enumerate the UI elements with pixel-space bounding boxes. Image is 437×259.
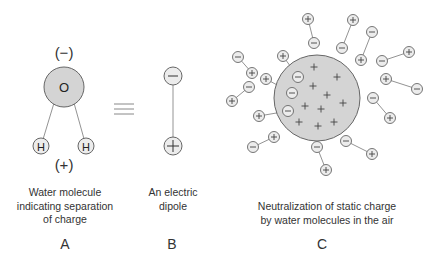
- hydrogen-label: H: [37, 141, 45, 153]
- charged-particle: [274, 55, 360, 141]
- panel-label-a: A: [45, 236, 85, 252]
- caption-line: An electric: [133, 186, 213, 200]
- electric-dipole: [164, 67, 182, 155]
- negative-charge-label: (−): [44, 44, 84, 61]
- equivalence-icon: [114, 104, 134, 114]
- hydrogen-label: H: [82, 141, 90, 153]
- positive-charge-label: (+): [44, 156, 84, 173]
- caption-c: Neutralization of static charge by water…: [237, 200, 417, 227]
- caption-line: Neutralization of static charge: [237, 200, 417, 214]
- caption-line: Water molecule: [10, 186, 120, 200]
- panel-label-c: C: [302, 236, 342, 252]
- caption-line: by water molecules in the air: [237, 214, 417, 228]
- caption-line: indicating separation: [10, 200, 120, 214]
- caption-a: Water molecule indicating separation of …: [10, 186, 120, 227]
- caption-line: dipole: [133, 200, 213, 214]
- panel-label-b: B: [152, 236, 192, 252]
- oxygen-label: O: [59, 80, 69, 95]
- water-molecule: O H H: [33, 67, 94, 154]
- caption-b: An electric dipole: [133, 186, 213, 213]
- neutralization-diagram: [227, 14, 423, 176]
- caption-line: of charge: [10, 213, 120, 227]
